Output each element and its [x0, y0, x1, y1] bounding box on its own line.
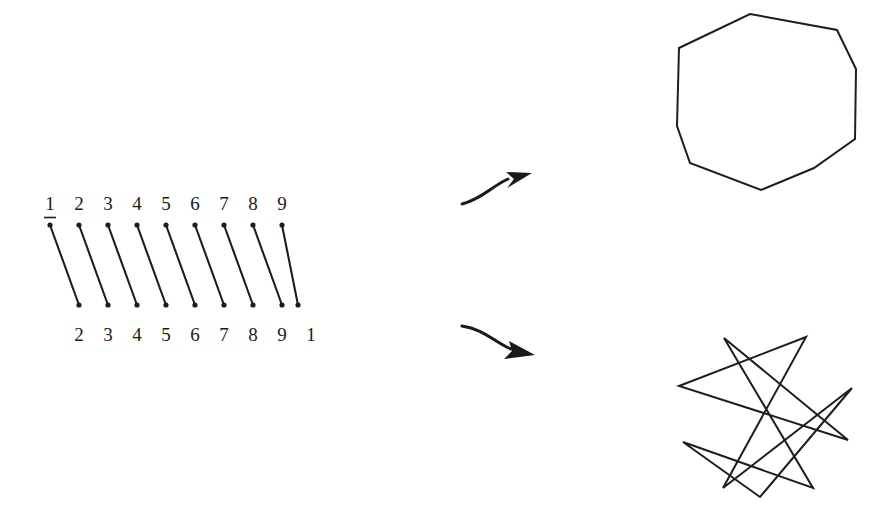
- figure-root: 1 2 3 4 5 6 7 8 9: [0, 0, 894, 517]
- top-label-5: 5: [161, 193, 171, 214]
- bottom-row-labels: 2 3 4 5 6 7 8 9 1: [74, 324, 316, 345]
- bottom-label-4: 5: [161, 324, 171, 345]
- star-polygon-shape: [679, 337, 852, 497]
- mapping-arrow-1: [47, 222, 81, 307]
- mapping-arrow-7: [221, 222, 255, 307]
- mapping-arrows-group: [47, 222, 300, 307]
- bottom-label-6: 7: [219, 324, 229, 345]
- top-row-labels: 1 2 3 4 5 6 7 8 9: [45, 193, 287, 214]
- bottom-label-7: 8: [248, 324, 258, 345]
- top-label-6: 6: [190, 193, 200, 214]
- mapping-arrow-8: [250, 222, 284, 307]
- figure-canvas: 1 2 3 4 5 6 7 8 9: [0, 0, 894, 517]
- curved-arrow-to-nonagon: [462, 172, 532, 204]
- mapping-arrow-5: [163, 222, 197, 307]
- bottom-label-2: 3: [103, 324, 113, 345]
- top-label-8: 8: [248, 193, 258, 214]
- mapping-arrow-4: [134, 222, 168, 307]
- top-label-1: 1: [45, 193, 55, 214]
- top-label-4: 4: [132, 193, 142, 214]
- bottom-label-8: 9: [277, 324, 287, 345]
- bottom-label-1: 2: [74, 324, 84, 345]
- top-label-7: 7: [219, 193, 229, 214]
- mapping-arrow-3: [105, 222, 139, 307]
- bottom-label-5: 6: [190, 324, 200, 345]
- mapping-arrow-9: [279, 222, 300, 307]
- curved-arrow-to-star-polygon: [462, 326, 535, 359]
- top-label-9: 9: [277, 193, 287, 214]
- mapping-arrow-6: [192, 222, 226, 307]
- bottom-label-3: 4: [132, 324, 142, 345]
- nonagon-shape: [677, 14, 856, 190]
- permutation-table-group: 1 2 3 4 5 6 7 8 9: [44, 193, 316, 345]
- top-label-2: 2: [74, 193, 84, 214]
- bottom-label-9: 1: [306, 324, 316, 345]
- mapping-arrow-2: [76, 222, 110, 307]
- top-label-3: 3: [103, 193, 113, 214]
